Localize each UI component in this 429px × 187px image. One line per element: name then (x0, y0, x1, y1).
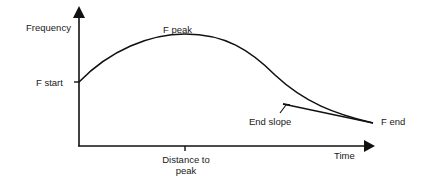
x-axis-arrow-icon (364, 140, 375, 152)
end-slope-pointer (280, 105, 286, 113)
f-start-label: F start (36, 77, 63, 88)
frequency-curve (79, 34, 373, 123)
distance-to-peak-line1: Distance to (160, 154, 212, 165)
y-axis-label: Frequency (26, 22, 71, 33)
distance-to-peak-line2: peak (160, 165, 212, 176)
end-slope-line (283, 104, 373, 123)
distance-to-peak-label: Distance to peak (160, 154, 212, 176)
end-slope-cap (283, 104, 290, 105)
f-peak-label: F peak (163, 24, 192, 35)
x-axis-label: Time (334, 150, 355, 161)
end-slope-label: End slope (249, 116, 291, 127)
y-axis-arrow-icon (73, 6, 85, 18)
f-end-label: F end (381, 116, 405, 127)
